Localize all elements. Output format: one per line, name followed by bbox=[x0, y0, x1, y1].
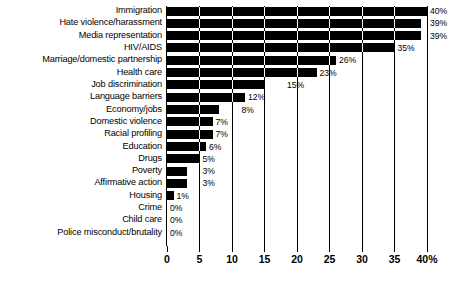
category-label: Housing bbox=[0, 191, 162, 201]
category-label: Police misconduct/brutality bbox=[0, 228, 162, 238]
gridline-over-bar bbox=[394, 31, 395, 40]
gridline-over-bar bbox=[264, 7, 265, 16]
gridline-over-bar bbox=[297, 7, 298, 16]
bar bbox=[167, 43, 395, 52]
gridline-over-bar bbox=[329, 56, 330, 65]
category-label: Poverty bbox=[0, 166, 162, 176]
category-label: Crime bbox=[0, 203, 162, 213]
gridline-over-bar bbox=[232, 93, 233, 102]
gridline-over-bar bbox=[199, 68, 200, 77]
gridline-over-bar bbox=[362, 7, 363, 16]
bar-row: 39% bbox=[167, 19, 427, 28]
value-label: 8% bbox=[242, 105, 254, 115]
gridline-over-bar bbox=[329, 19, 330, 28]
category-label: Economy/jobs bbox=[0, 105, 162, 115]
value-label: 12% bbox=[248, 92, 265, 102]
gridline-over-bar bbox=[362, 31, 363, 40]
category-label: Health care bbox=[0, 68, 162, 78]
category-label: Affirmative action bbox=[0, 178, 162, 188]
x-axis-tick bbox=[329, 246, 330, 252]
bar-row: 7% bbox=[167, 117, 427, 126]
gridline-over-bar bbox=[199, 31, 200, 40]
bar bbox=[167, 19, 421, 28]
gridline-over-bar bbox=[199, 117, 200, 126]
gridline-over-bar bbox=[199, 105, 200, 114]
gridline-over-bar bbox=[362, 43, 363, 52]
gridline-over-bar bbox=[394, 19, 395, 28]
bar bbox=[167, 117, 213, 126]
gridline-over-bar bbox=[297, 68, 298, 77]
gridline-over-bar bbox=[329, 31, 330, 40]
bar-row: 3% bbox=[167, 179, 427, 188]
value-label: 40% bbox=[430, 6, 447, 16]
category-label: HIV/AIDS bbox=[0, 43, 162, 53]
value-label: 39% bbox=[430, 31, 447, 41]
bar-row: 0% bbox=[167, 204, 427, 213]
category-label: Child care bbox=[0, 215, 162, 225]
x-axis-tick-label: 40% bbox=[402, 253, 452, 265]
bar-row: 3% bbox=[167, 167, 427, 176]
value-label: 7% bbox=[216, 117, 228, 127]
gridline-over-bar bbox=[297, 19, 298, 28]
gridline-over-bar bbox=[394, 7, 395, 16]
plot-area: 40%39%39%35%26%23%15%12%8%7%7%6%5%3%3%1%… bbox=[167, 6, 427, 246]
gridline-over-bar bbox=[264, 43, 265, 52]
bar-row: 40% bbox=[167, 7, 427, 16]
value-label: 0% bbox=[170, 215, 182, 225]
bar-row: 1% bbox=[167, 191, 427, 200]
category-label: Job discrimination bbox=[0, 80, 162, 90]
value-label: 1% bbox=[177, 191, 189, 201]
bar-row: 6% bbox=[167, 142, 427, 151]
value-label: 0% bbox=[170, 203, 182, 213]
category-label: Education bbox=[0, 142, 162, 152]
bar bbox=[167, 93, 245, 102]
category-label: Marriage/domestic partnership bbox=[0, 55, 162, 65]
category-axis-labels: ImmigrationHate violence/harassmentMedia… bbox=[0, 6, 165, 246]
gridline-over-bar bbox=[264, 19, 265, 28]
category-label: Domestic violence bbox=[0, 117, 162, 127]
category-label: Language barriers bbox=[0, 92, 162, 102]
gridline-over-bar bbox=[297, 31, 298, 40]
x-axis-tick bbox=[394, 246, 395, 252]
category-label: Racial profiling bbox=[0, 129, 162, 139]
bar bbox=[167, 80, 265, 89]
category-label: Hate violence/harassment bbox=[0, 18, 162, 28]
gridline-over-bar bbox=[297, 56, 298, 65]
value-label: 3% bbox=[203, 178, 215, 188]
x-axis-tick bbox=[199, 246, 200, 252]
bar bbox=[167, 142, 206, 151]
bar-row: 15% bbox=[167, 80, 427, 89]
bar-chart: ImmigrationHate violence/harassmentMedia… bbox=[0, 0, 456, 299]
x-axis-tick bbox=[297, 246, 298, 252]
bar bbox=[167, 130, 213, 139]
bar-row: 35% bbox=[167, 43, 427, 52]
value-label: 6% bbox=[209, 142, 221, 152]
gridline-over-bar bbox=[199, 19, 200, 28]
x-axis-tick bbox=[427, 246, 428, 252]
bar-row: 0% bbox=[167, 228, 427, 237]
value-label: 23% bbox=[320, 68, 337, 78]
bar bbox=[167, 179, 187, 188]
bar-row: 39% bbox=[167, 31, 427, 40]
gridline-over-bar bbox=[329, 7, 330, 16]
x-axis-tick bbox=[362, 246, 363, 252]
bar bbox=[167, 31, 421, 40]
category-label: Drugs bbox=[0, 154, 162, 164]
gridline-over-bar bbox=[232, 80, 233, 89]
gridline-over-bar bbox=[199, 93, 200, 102]
gridline-over-bar bbox=[232, 56, 233, 65]
bar-row: 23% bbox=[167, 68, 427, 77]
gridline-over-bar bbox=[329, 43, 330, 52]
bar-row: 8% bbox=[167, 105, 427, 114]
gridline-over-bar bbox=[297, 43, 298, 52]
bar bbox=[167, 105, 219, 114]
gridline-over-bar bbox=[232, 31, 233, 40]
value-label: 39% bbox=[430, 18, 447, 28]
gridline-over-bar bbox=[199, 43, 200, 52]
gridline-over-bar bbox=[199, 80, 200, 89]
bar-row: 12% bbox=[167, 93, 427, 102]
bar bbox=[167, 68, 317, 77]
bar-row: 26% bbox=[167, 56, 427, 65]
bar bbox=[167, 56, 336, 65]
value-label: 5% bbox=[203, 154, 215, 164]
